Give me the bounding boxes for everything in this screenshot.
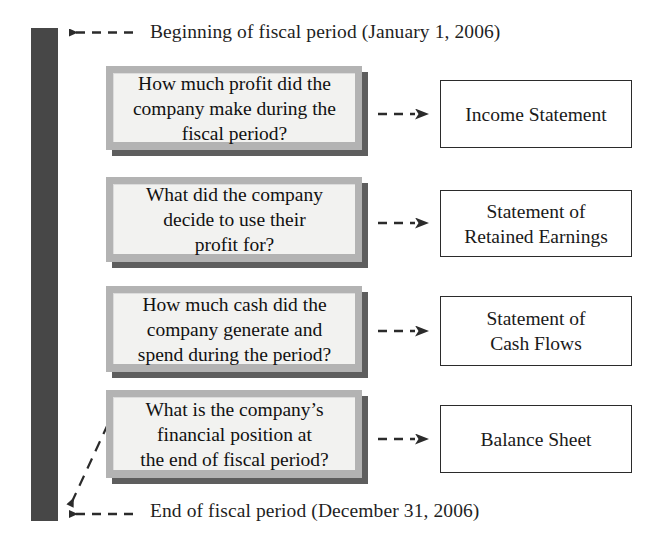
beginning-of-period-label: Beginning of fiscal period (January 1, 2…	[150, 22, 500, 42]
statement-box-retained-earnings[interactable]: Statement ofRetained Earnings	[440, 190, 632, 257]
end-of-period-label: End of fiscal period (December 31, 2006)	[150, 501, 479, 521]
question-box-4[interactable]: What is the company’sfinancial position …	[106, 390, 362, 478]
diagonal-period-arrow-icon	[70, 424, 108, 506]
question-box-3[interactable]: How much cash did thecompany generate an…	[106, 286, 362, 372]
statement-box-balance-sheet[interactable]: Balance Sheet	[440, 405, 632, 473]
question-box-3-inner: How much cash did thecompany generate an…	[113, 293, 355, 364]
question-box-2-text: What did the companydecide to use theirp…	[140, 180, 329, 259]
question-box-2-inner: What did the companydecide to use theirp…	[113, 184, 355, 254]
statement-box-4-text: Balance Sheet	[481, 427, 592, 452]
statement-box-cash-flows[interactable]: Statement ofCash Flows	[440, 296, 632, 366]
question-box-1-inner: How much profit did thecompany make duri…	[113, 73, 355, 142]
statement-box-2-text: Statement ofRetained Earnings	[464, 199, 608, 249]
question-box-3-text: How much cash did thecompany generate an…	[132, 290, 337, 369]
diagram-canvas: Beginning of fiscal period (January 1, 2…	[0, 0, 659, 559]
statement-box-1-text: Income Statement	[465, 102, 606, 127]
statement-box-income-statement[interactable]: Income Statement	[440, 80, 632, 148]
question-box-1[interactable]: How much profit did thecompany make duri…	[106, 66, 362, 150]
statement-box-3-text: Statement ofCash Flows	[486, 306, 585, 356]
question-box-4-inner: What is the company’sfinancial position …	[113, 397, 355, 470]
question-box-1-text: How much profit did thecompany make duri…	[127, 69, 342, 148]
fiscal-period-timeline-bar	[31, 28, 58, 521]
question-box-2[interactable]: What did the companydecide to use theirp…	[106, 177, 362, 262]
question-box-4-text: What is the company’sfinancial position …	[134, 395, 334, 474]
